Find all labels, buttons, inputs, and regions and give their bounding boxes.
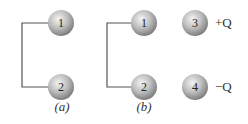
charge-label-plus-q: +Q [215,15,232,30]
sphere-label: 4 [192,80,198,94]
connecting-wire-a [22,23,49,87]
sphere-4: 4 [182,74,208,100]
charge-label-minus-q: −Q [215,79,232,94]
conducting-spheres-diagram: 1 2 (a) 1 2 3 +Q 4 −Q (b) [0,0,248,124]
sphere-label: 1 [58,16,64,30]
sphere-1-b: 1 [131,10,157,36]
sphere-label: 2 [58,80,64,94]
sphere-label: 2 [141,80,147,94]
panel-label-b: (b) [136,99,151,114]
sphere-1-a: 1 [48,10,74,36]
sphere-label: 3 [192,16,198,30]
connecting-wire-b [107,23,132,87]
panel-b: 1 2 3 +Q 4 −Q (b) [107,10,232,114]
panel-label-a: (a) [54,99,69,114]
sphere-2-a: 2 [48,74,74,100]
sphere-label: 1 [141,16,147,30]
sphere-2-b: 2 [131,74,157,100]
sphere-3: 3 [182,10,208,36]
panel-a: 1 2 (a) [22,10,74,114]
